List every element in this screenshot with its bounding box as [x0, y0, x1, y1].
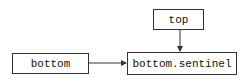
node-top-label: top	[169, 14, 189, 26]
node-bottom-label: bottom	[31, 58, 71, 70]
node-bottom: bottom	[12, 53, 89, 74]
node-bottom-sentinel-label: bottom.sentinel	[132, 58, 231, 70]
node-bottom-sentinel: bottom.sentinel	[127, 52, 237, 75]
node-top: top	[153, 9, 204, 30]
